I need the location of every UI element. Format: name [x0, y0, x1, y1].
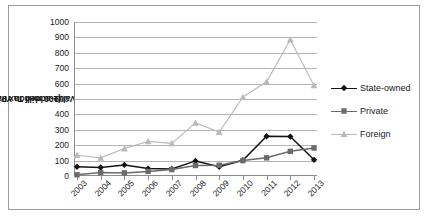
data-point-marker [264, 155, 269, 160]
series-layer [74, 22, 317, 176]
legend-item-foreign[interactable]: Foreign [331, 122, 429, 145]
data-point-marker [311, 145, 316, 150]
x-axis-tick-label: 2009 [211, 178, 231, 198]
y-axis-tick-label: 1000 [50, 17, 69, 27]
series-foreign [74, 36, 318, 160]
data-point-marker [341, 130, 348, 136]
x-axis-tick-labels: 2003200420052006200720082009201020112012… [74, 178, 317, 218]
legend-item-private[interactable]: Private [331, 99, 429, 122]
data-point-marker [216, 129, 223, 135]
y-axis-tick-label: 500 [55, 94, 69, 104]
y-axis-tick-label: 800 [55, 48, 69, 58]
data-point-marker [193, 163, 198, 168]
data-point-marker [341, 108, 346, 113]
legend-marker-square-icon [331, 106, 357, 116]
x-axis-tick-label: 2005 [116, 178, 136, 198]
data-point-marker [240, 94, 247, 100]
chart-frame: Value-added Tax Payable (100 million Yua… [8, 5, 420, 210]
y-axis-tick-label: 600 [55, 79, 69, 89]
data-point-marker [122, 170, 127, 175]
data-point-marker [74, 172, 79, 177]
data-point-marker [311, 82, 318, 88]
data-point-marker [287, 36, 294, 42]
x-axis-tick-label: 2012 [282, 178, 302, 198]
x-axis-tick-label: 2007 [163, 178, 183, 198]
data-point-marker [240, 158, 245, 163]
legend-item-state-owned[interactable]: State-owned [331, 76, 429, 99]
x-axis-tick-label: 2004 [92, 178, 112, 198]
data-point-marker [145, 169, 150, 174]
y-axis-tick-label: 300 [55, 125, 69, 135]
legend-marker-triangle-icon [331, 129, 357, 139]
data-point-marker [169, 167, 174, 172]
data-point-marker [288, 149, 293, 154]
x-axis-tick-label: 2006 [140, 178, 160, 198]
x-axis-tick-label: 2008 [187, 178, 207, 198]
data-point-marker [217, 163, 222, 168]
y-axis-tick-label: 200 [55, 140, 69, 150]
data-point-marker [341, 84, 347, 90]
y-axis-tick-label: 900 [55, 32, 69, 42]
y-axis-tick-label: 100 [55, 156, 69, 166]
legend-item-label: State-owned [357, 83, 411, 93]
y-axis-tick-label: 700 [55, 63, 69, 73]
chart-legend: State-ownedPrivateForeign [331, 76, 429, 145]
data-point-marker [263, 78, 270, 84]
data-point-marker [98, 170, 103, 175]
series-line [77, 40, 314, 158]
y-axis-tick-label: 0 [64, 171, 69, 181]
y-axis-tick-labels: 01002003004005006007008009001000 [9, 22, 73, 176]
data-point-marker [98, 164, 104, 170]
x-axis-tick-label: 2013 [306, 178, 326, 198]
x-axis-tick-label: 2003 [69, 178, 89, 198]
x-axis-tick-label: 2011 [259, 178, 279, 198]
x-axis-tick-label: 2010 [235, 178, 255, 198]
legend-item-label: Foreign [357, 129, 391, 139]
plot-area [74, 22, 317, 176]
legend-marker-diamond-icon [331, 83, 357, 93]
data-point-marker [74, 164, 80, 170]
legend-item-label: Private [357, 106, 388, 116]
data-point-marker [192, 119, 199, 125]
data-point-marker [121, 162, 127, 168]
y-axis-tick-label: 400 [55, 109, 69, 119]
